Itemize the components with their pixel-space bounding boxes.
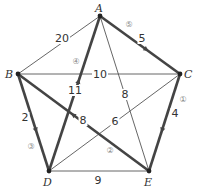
edge-AB (18, 16, 100, 74)
order-marker: ⑤ (125, 20, 132, 29)
vertex-label: C (184, 68, 193, 81)
vertex-B (16, 72, 21, 77)
vertex-label: B (4, 68, 13, 81)
edge-weight: 2 (22, 111, 29, 124)
edge-weight: 9 (95, 174, 102, 187)
edge-CE (149, 74, 180, 171)
vertices: ABCDE (4, 2, 193, 189)
edge-weight: 11 (68, 84, 82, 97)
order-marker: ④ (72, 57, 79, 66)
vertex-C (178, 72, 183, 77)
edge-weight: 6 (112, 115, 119, 128)
edge-weight: 10 (93, 68, 107, 81)
graph-diagram: 2010869548211 ⑤①②③④ ABCDE (0, 0, 198, 192)
vertex-label: D (42, 176, 52, 189)
edge-weight: 8 (122, 88, 129, 101)
order-marker: ③ (27, 142, 34, 151)
vertex-E (147, 169, 152, 174)
edge-AC (100, 16, 180, 74)
edge-weight: 20 (55, 32, 69, 45)
bold-edges (18, 16, 180, 171)
vertex-label: E (143, 176, 152, 189)
vertex-label: A (94, 2, 103, 15)
vertex-D (47, 169, 52, 174)
order-marker: ① (179, 95, 186, 104)
edge-weight: 8 (80, 114, 87, 127)
edge-order-markers: ⑤①②③④ (27, 20, 186, 155)
order-marker: ② (106, 146, 113, 155)
edge-weight: 5 (139, 32, 146, 45)
edge-weight: 4 (172, 107, 179, 120)
